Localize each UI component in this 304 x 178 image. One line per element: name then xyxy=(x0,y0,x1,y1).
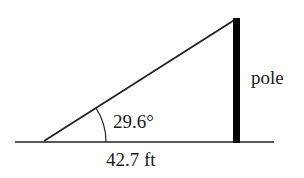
pole-label: pole xyxy=(251,67,284,88)
angle-label: 29.6° xyxy=(113,111,154,132)
pole xyxy=(233,18,240,143)
base-length-label: 42.7 ft xyxy=(106,149,156,170)
angle-arc xyxy=(96,108,106,142)
triangle-diagram: 29.6° 42.7 ft pole xyxy=(0,0,304,178)
